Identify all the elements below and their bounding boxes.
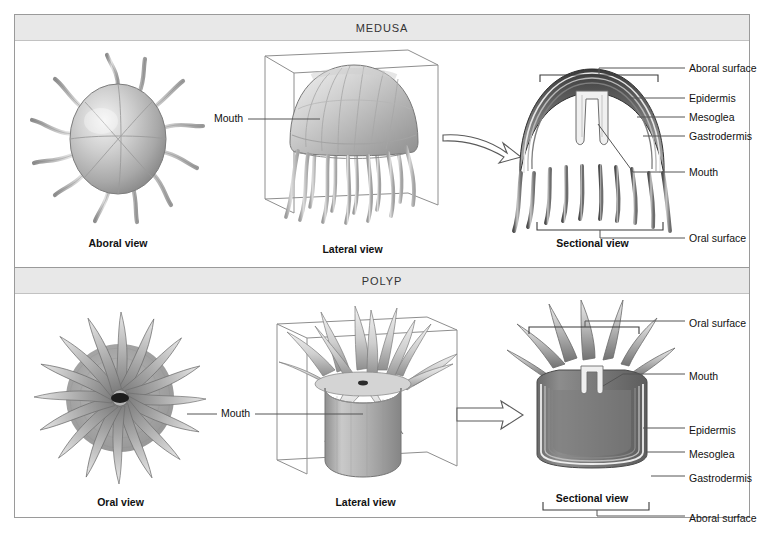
polyp-callout-aboral-surface: Aboral surface (689, 513, 757, 524)
polyp-mouth-right-leader (255, 406, 365, 422)
polyp-callout-epidermis: Epidermis (689, 425, 736, 436)
medusa-callout-mesoglea: Mesoglea (689, 112, 735, 123)
medusa-lateral-view: Lateral view (250, 47, 455, 237)
medusa-callout-aboral-surface: Aboral surface (689, 63, 757, 74)
medusa-callout-lines (515, 60, 755, 250)
panel-medusa: MEDUSA (15, 15, 749, 267)
polyp-callout-gastrodermis: Gastrodermis (689, 473, 752, 484)
polyp-mouth-left-leader (187, 406, 219, 422)
polyp-oral-caption: Oral view (23, 496, 218, 508)
figure-stage: MEDUSA (0, 0, 765, 550)
medusa-aboral-drawing (23, 47, 213, 232)
medusa-callout-mouth: Mouth (689, 167, 718, 178)
medusa-lateral-caption: Lateral view (250, 243, 455, 255)
polyp-callout-mouth: Mouth (689, 371, 718, 382)
polyp-oral-view: Oral view (23, 306, 218, 491)
medusa-aboral-caption: Aboral view (23, 237, 213, 249)
panel-polyp: POLYP (15, 267, 749, 519)
polyp-lateral-drawing (263, 300, 468, 490)
polyp-lateral-caption: Lateral view (263, 496, 468, 508)
polyp-callout-oral-surface: Oral surface (689, 318, 746, 329)
polyp-oral-drawing (23, 306, 218, 491)
medusa-callout-epidermis: Epidermis (689, 93, 736, 104)
medusa-aboral-view: Aboral view (23, 47, 213, 232)
medusa-mouth-lateral-label: Mouth (214, 112, 243, 124)
medusa-callout-gastrodermis: Gastrodermis (689, 131, 752, 142)
panel-header-polyp: POLYP (15, 268, 749, 294)
medusa-lateral-drawing (250, 47, 455, 237)
polyp-lateral-view: Lateral view (263, 300, 468, 490)
polyp-mouth-lateral-label: Mouth (221, 407, 250, 419)
figure-frame: MEDUSA (14, 14, 750, 518)
polyp-callout-mesoglea: Mesoglea (689, 449, 735, 460)
panel-header-medusa: MEDUSA (15, 15, 749, 41)
medusa-mouth-lateral-leader (248, 111, 322, 127)
medusa-callout-oral-surface: Oral surface (689, 233, 746, 244)
panel-header-medusa-label: MEDUSA (356, 22, 408, 34)
panel-header-polyp-label: POLYP (362, 275, 402, 287)
polyp-callout-lines (515, 316, 755, 521)
